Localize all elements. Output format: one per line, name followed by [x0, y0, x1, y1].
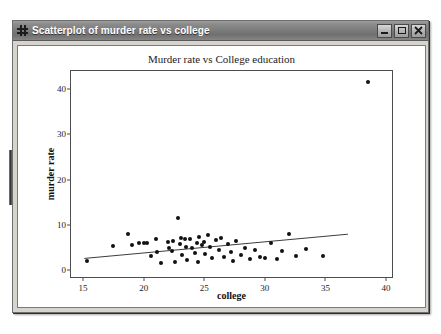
data-point	[166, 240, 170, 244]
x-tick-mark	[325, 277, 326, 281]
y-tick-mark	[67, 179, 71, 180]
data-point	[234, 239, 238, 243]
data-point	[188, 237, 192, 241]
close-icon	[414, 26, 423, 35]
data-point	[321, 254, 325, 258]
plot-frame: 010203040152025303540	[70, 70, 393, 278]
data-point	[263, 256, 267, 260]
scatter-plot: Murder rate vs College education 0102030…	[18, 46, 425, 307]
data-point	[126, 232, 130, 236]
data-point	[217, 248, 221, 252]
chart-title: Murder rate vs College education	[18, 53, 425, 65]
grid-window-icon	[17, 25, 28, 36]
plot-client-area: Murder rate vs College education 0102030…	[17, 45, 426, 308]
data-point	[171, 239, 175, 243]
screen: Scatterplot of murder rate vs college	[0, 0, 441, 334]
data-point	[145, 241, 149, 245]
plot-window: Scatterplot of murder rate vs college	[12, 20, 429, 313]
data-point	[130, 243, 134, 247]
data-point	[206, 233, 210, 237]
window-title: Scatterplot of murder rate vs college	[32, 25, 377, 36]
x-tick-mark	[264, 277, 265, 281]
data-point	[275, 257, 279, 261]
trendline	[71, 71, 392, 277]
y-tick-mark	[67, 270, 71, 271]
data-point	[239, 253, 243, 257]
data-point	[229, 250, 233, 254]
y-tick-label: 10	[57, 220, 66, 230]
y-axis-label: murder rate	[45, 148, 56, 200]
data-point	[222, 255, 226, 259]
data-point	[258, 255, 262, 259]
data-point	[184, 245, 188, 249]
window-controls	[377, 24, 426, 38]
y-tick-mark	[67, 134, 71, 135]
y-tick-mark	[67, 89, 71, 90]
data-point	[287, 232, 291, 236]
window-titlebar[interactable]: Scatterplot of murder rate vs college	[13, 21, 428, 41]
data-point	[196, 260, 200, 264]
data-point	[193, 251, 197, 255]
data-point	[155, 250, 159, 254]
maximize-button[interactable]	[394, 24, 409, 38]
x-tick-mark	[204, 277, 205, 281]
data-point	[280, 249, 284, 253]
data-point	[85, 259, 89, 263]
x-tick-mark	[83, 277, 84, 281]
x-axis-label: college	[70, 290, 393, 301]
x-tick-mark	[143, 277, 144, 281]
data-point	[195, 241, 199, 245]
data-point	[170, 249, 174, 253]
data-point	[149, 254, 153, 258]
y-tick-label: 20	[57, 175, 66, 185]
data-point	[159, 261, 163, 265]
data-point	[178, 242, 182, 246]
minimize-button[interactable]	[377, 24, 392, 38]
x-tick-mark	[385, 277, 386, 281]
y-tick-mark	[67, 224, 71, 225]
data-point	[176, 216, 180, 220]
y-tick-label: 40	[57, 84, 66, 94]
y-tick-label: 30	[57, 129, 66, 139]
data-point	[137, 241, 141, 245]
y-tick-label: 0	[62, 265, 67, 275]
close-button[interactable]	[411, 24, 426, 38]
data-point	[154, 237, 158, 241]
